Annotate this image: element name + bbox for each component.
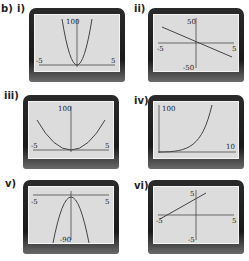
svg-text:5: 5	[232, 217, 236, 225]
graph-ii-plot: -5 5 50 -50	[154, 15, 238, 71]
graph-ii-label: ii)	[134, 3, 145, 14]
svg-text:5: 5	[190, 190, 194, 198]
graph-i-label: i)	[17, 3, 25, 14]
graph-ii-screen: -5 5 50 -50	[153, 14, 239, 72]
svg-text:100: 100	[66, 18, 79, 26]
svg-text:100: 100	[58, 105, 71, 113]
svg-text:100: 100	[162, 105, 175, 113]
svg-text:-90: -90	[60, 236, 71, 243]
calculator-i: -5 5 100	[29, 8, 125, 82]
svg-text:-5: -5	[157, 45, 164, 53]
svg-text:5: 5	[105, 198, 109, 206]
part-label: b)	[1, 3, 13, 14]
svg-text:5: 5	[232, 45, 236, 53]
graph-i-plot: -5 5 100	[35, 15, 119, 71]
graph-iii-plot: -5 5 100	[29, 102, 113, 158]
svg-text:-5: -5	[188, 236, 195, 243]
graph-i-screen: -5 5 100	[34, 14, 120, 72]
graph-iv-plot: 100 10	[154, 102, 238, 158]
graph-v-screen: -5 5 -90	[28, 186, 114, 244]
graph-iii-screen: -5 5 100	[28, 101, 114, 159]
svg-text:5: 5	[111, 57, 115, 65]
svg-text:50: 50	[187, 18, 196, 26]
calculator-ii: -5 5 50 -50	[148, 8, 244, 82]
graph-v-label: v)	[5, 178, 16, 189]
graph-iv-screen: 100 10	[153, 101, 239, 159]
calculator-iv: 100 10	[148, 95, 244, 169]
graph-vi-plot: -5 5 5 -5	[154, 187, 238, 243]
graph-vi-label: vi)	[134, 180, 149, 191]
graph-iv-label: iv)	[134, 95, 149, 106]
graph-iii-label: iii)	[4, 90, 19, 101]
svg-text:10: 10	[226, 143, 235, 151]
svg-text:5: 5	[105, 142, 109, 150]
graph-v-plot: -5 5 -90	[29, 187, 113, 243]
svg-text:-5: -5	[31, 198, 38, 206]
graph-vi-screen: -5 5 5 -5	[153, 186, 239, 244]
calculator-iii: -5 5 100	[23, 95, 119, 169]
calculator-vi: -5 5 5 -5	[148, 180, 244, 254]
svg-text:-50: -50	[183, 64, 194, 71]
svg-text:-5: -5	[156, 217, 163, 225]
svg-text:-5: -5	[36, 57, 43, 65]
calculator-v: -5 5 -90	[23, 180, 119, 254]
svg-text:-5: -5	[31, 142, 38, 150]
